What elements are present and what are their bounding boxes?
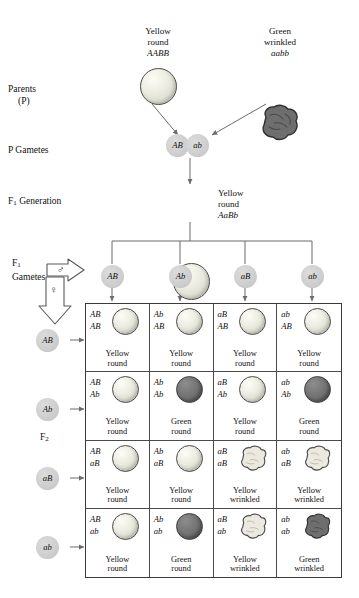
cell-allele-top: aB [218,377,235,387]
cell-seed-slot [235,308,274,335]
cell-allele-top: aB [218,514,235,524]
cell-caption: Green round [150,417,213,436]
cell-allele-bottom: ab [218,526,235,536]
cell-seed-slot [298,445,338,472]
seed-yellow-round-icon [112,376,139,403]
cell-caption: Yellow wrinkled [214,555,277,574]
cell-seed-slot [107,308,146,335]
cell-allele-top: ab [281,377,298,387]
f1-gamete-row-3: ab [36,536,59,559]
punnett-cell-3-2: aB ab Yellow wrinkled [214,509,278,577]
cell-allele-bottom: Ab [281,389,298,399]
seed-yellow-round-icon [176,445,203,472]
cell-caption: Green round [277,417,341,436]
cell-cap-line2: round [235,359,255,368]
cell-allele-bottom: ab [90,526,107,536]
cell-allele-bottom: aB [281,458,298,468]
seed-green-round-icon [176,376,203,403]
punnett-cell-1-2: aB Ab Yellow round [214,372,278,440]
cell-seed-slot [235,513,274,540]
cell-allele-bottom: aB [154,458,171,468]
p-gamete-circle-1: ab [186,134,209,157]
seed-yellow-round-icon [112,308,139,335]
f1-gamete-col-label-3: ab [308,272,317,281]
cell-allele-top: AB [90,514,107,524]
cell-cap-line2: round [108,427,128,436]
cell-seed-slot [171,513,210,540]
cell-allele-top: ab [281,514,298,524]
cell-caption: Yellow round [150,486,213,505]
cell-cap-line2: wrinkled [230,495,260,504]
cell-cap-line1: Yellow [105,417,129,426]
cell-cap-line1: Yellow [169,349,193,358]
f1-gamete-col-0: AB [101,265,124,288]
cell-seed-slot [235,445,274,472]
punnett-square: AB AB Yellow round Ab AB Yellow round [85,303,342,578]
punnett-cell-2-3: ab aB Yellow wrinkled [277,441,341,509]
cell-seed-slot [107,445,146,472]
f1-genotype: AaBb [218,210,238,220]
cell-cap-line1: Yellow [233,486,257,495]
f1-gamete-col-2: aB [234,265,257,288]
f1-gamete-col-3: ab [301,265,324,288]
p-gamete-label-0: AB [172,141,183,150]
cell-caption: Green wrinkled [277,555,341,574]
p-gamete-label-1: ab [193,141,202,150]
cell-allele-bottom: aB [90,458,107,468]
cell-cap-line1: Yellow [105,555,129,564]
cell-allele-bottom: AB [154,321,171,331]
cell-caption: Yellow round [214,417,277,436]
cell-seed-slot [235,376,274,403]
cell-allele-top: aB [218,309,235,319]
cell-caption: Yellow round [277,349,341,368]
punnett-cell-0-1: Ab AB Yellow round [150,304,214,372]
cell-cap-line1: Yellow [233,417,257,426]
cell-cap-line2: round [108,359,128,368]
seed-yellow-wrinkled-icon [239,445,267,472]
cell-caption: Yellow round [214,349,277,368]
punnett-cell-2-0: AB aB Yellow round [86,441,150,509]
cell-cap-line1: Yellow [105,486,129,495]
seed-green-round-icon [304,376,331,403]
cell-caption: Yellow round [86,486,149,505]
punnett-cell-0-0: AB AB Yellow round [86,304,150,372]
cell-seed-slot [298,513,338,540]
cell-cap-line2: round [171,359,191,368]
cell-cap-line1: Yellow [233,555,257,564]
cell-caption: Yellow round [86,555,149,574]
cell-caption: Yellow round [86,349,149,368]
cell-cap-line1: Yellow [233,349,257,358]
cell-allele-bottom: AB [90,321,107,331]
cell-caption: Yellow round [150,349,213,368]
f1-gamete-row-label-2: aB [43,474,53,483]
punnett-cell-1-3: ab Ab Green round [277,372,341,440]
cell-caption: Green round [150,555,213,574]
seed-yellow-round-icon [239,308,266,335]
cell-allele-bottom: Ab [90,389,107,399]
punnett-cell-3-0: AB ab Yellow round [86,509,150,577]
cell-allele-top: Ab [154,514,171,524]
cell-cap-line2: wrinkled [230,564,260,573]
cell-caption: Yellow wrinkled [214,486,277,505]
cell-cap-line1: Green [171,555,191,564]
cell-cap-line1: Green [171,417,191,426]
cell-seed-slot [298,376,338,403]
female-block-arrow [38,276,78,328]
seed-yellow-round-icon [239,376,266,403]
punnett-cell-1-0: AB Ab Yellow round [86,372,150,440]
cell-cap-line1: Green [299,555,319,564]
f1-gamete-row-2: aB [36,467,59,490]
male-symbol-icon: ♂ [57,264,65,275]
cell-allele-top: Ab [154,309,171,319]
cell-allele-top: Ab [154,446,171,456]
f1-gamete-col-label-0: AB [107,272,118,281]
f1-gamete-col-label-2: aB [241,272,251,281]
f1-gamete-row-label-0: AB [42,336,53,345]
cell-seed-slot [171,308,210,335]
cell-cap-line2: round [108,495,128,504]
punnett-cell-1-1: Ab Ab Green round [150,372,214,440]
cell-allele-top: AB [90,377,107,387]
cell-cap-line2: round [235,427,255,436]
cell-cap-line1: Green [299,417,319,426]
f1-gamete-row-label-3: ab [43,543,52,552]
